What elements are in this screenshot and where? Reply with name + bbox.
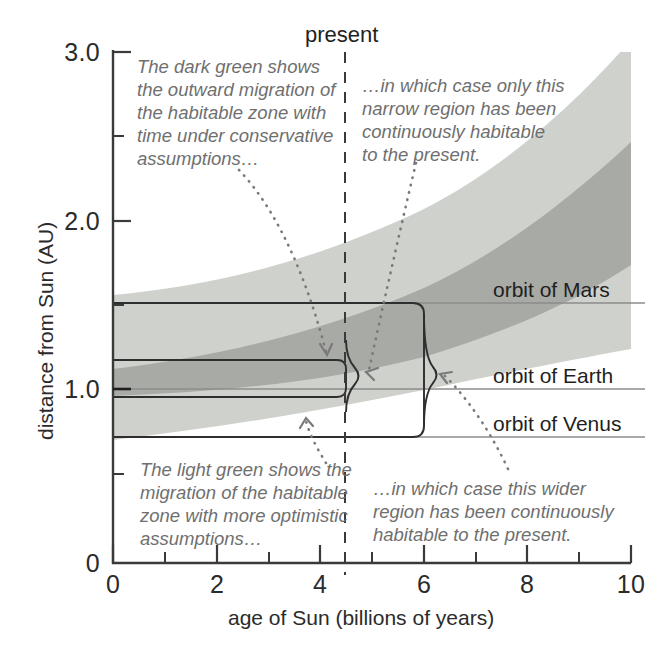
annotation-light-green-line-1: The light green shows the: [140, 458, 355, 481]
annotation-dark-green: The dark green shows the outward migrati…: [137, 55, 342, 170]
annotation-dark-green-line-3: the habitable zone with: [137, 101, 342, 124]
annotation-narrow-region-line-3: continuously habitable: [362, 120, 577, 143]
annotation-wider-region-line-1: …in which case this wider: [373, 477, 618, 500]
y-axis-title: distance from Sun (AU): [34, 222, 58, 440]
x-tick-label-8: 8: [497, 570, 557, 599]
annotation-wider-region: …in which case this wider region has bee…: [373, 477, 618, 546]
orbit-label-earth: orbit of Earth: [493, 364, 613, 388]
annotation-narrow-region: …in which case only this narrow region h…: [362, 74, 577, 166]
annotation-dark-green-line-1: The dark green shows: [137, 55, 342, 78]
x-tick-label-4: 4: [290, 570, 350, 599]
annotation-narrow-region-line-2: narrow region has been: [362, 97, 577, 120]
x-axis-title: age of Sun (billions of years): [228, 606, 494, 630]
annotation-dark-green-line-5: assumptions…: [137, 147, 342, 170]
x-tick-label-10: 10: [601, 570, 661, 599]
present-label: present: [305, 22, 378, 48]
annotation-light-green-line-4: assumptions…: [140, 527, 355, 550]
annotation-light-green-line-3: zone with more optimistic: [140, 504, 355, 527]
leader-line-light-green: [306, 421, 326, 463]
annotation-dark-green-line-4: time under conservative: [137, 124, 342, 147]
x-tick-label-6: 6: [394, 570, 454, 599]
x-tick-label-0: 0: [83, 570, 143, 599]
orbit-label-venus: orbit of Venus: [493, 412, 621, 436]
y-tick-label-3: 3.0: [46, 38, 100, 67]
annotation-wider-region-line-2: region has been continuously: [373, 500, 618, 523]
orbit-label-mars: orbit of Mars: [493, 278, 610, 302]
habitable-zone-chart: 3.0 2.0 1.0 0 0 2 4 6 8 10 distance from…: [0, 0, 667, 649]
x-tick-label-2: 2: [187, 570, 247, 599]
annotation-light-green-line-2: migration of the habitable: [140, 481, 355, 504]
annotation-wider-region-line-3: habitable to the present.: [373, 523, 618, 546]
annotation-narrow-region-line-1: …in which case only this: [362, 74, 577, 97]
annotation-narrow-region-line-4: to the present.: [362, 143, 577, 166]
annotation-dark-green-line-2: the outward migration of: [137, 78, 342, 101]
annotation-light-green: The light green shows the migration of t…: [140, 458, 355, 550]
